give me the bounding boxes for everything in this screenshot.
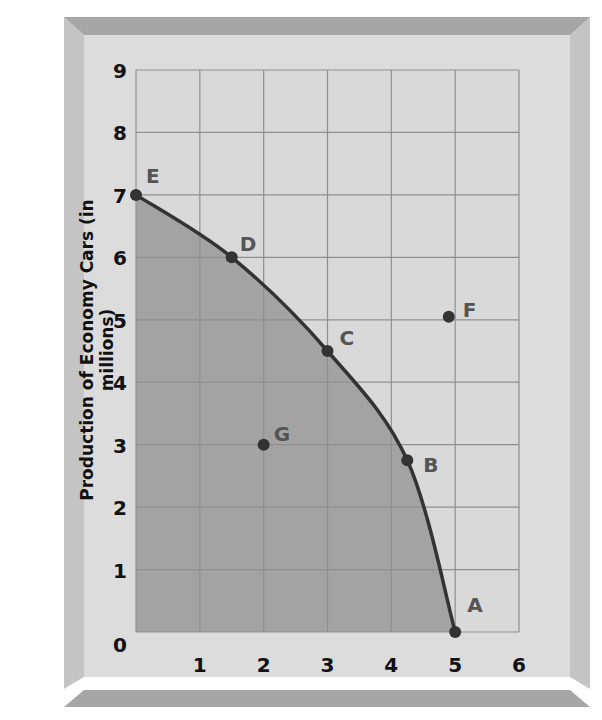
y-tick-label: 9 [113, 59, 127, 83]
y-tick-label: 8 [113, 121, 127, 145]
frame-bottom-bar [64, 690, 590, 707]
x-tick-label: 1 [193, 653, 207, 677]
point-a [449, 626, 461, 638]
y-tick-label: 7 [113, 184, 127, 208]
point-d [226, 251, 238, 263]
y-tick-label: 1 [113, 559, 127, 583]
x-tick-label: 4 [384, 653, 398, 677]
point-label-f: F [463, 298, 477, 322]
point-b [401, 454, 413, 466]
frame-right-bevel [570, 17, 590, 689]
point-label-d: D [240, 232, 257, 256]
point-label-b: B [423, 453, 438, 477]
y-tick-label: 2 [113, 496, 127, 520]
y-axis-label: Production of Economy Cars (in millions) [77, 160, 107, 540]
point-f [443, 311, 455, 323]
point-label-a: A [467, 593, 483, 617]
point-c [322, 345, 334, 357]
y-tick-label: 0 [113, 633, 127, 657]
point-g [258, 439, 270, 451]
x-tick-label: 2 [257, 653, 271, 677]
y-tick-label: 6 [113, 246, 127, 270]
point-label-c: C [340, 326, 355, 350]
point-e [130, 189, 142, 201]
y-tick-label: 3 [113, 434, 127, 458]
x-tick-label: 6 [512, 653, 526, 677]
point-label-g: G [274, 422, 290, 446]
chart-frame: EDCBAFG0123456789123456 Production of Ec… [64, 17, 590, 707]
ppf-chart: EDCBAFG0123456789123456 [64, 17, 590, 707]
frame-top-bevel [64, 17, 590, 35]
x-tick-label: 3 [321, 653, 335, 677]
point-label-e: E [146, 164, 160, 188]
x-tick-label: 5 [448, 653, 462, 677]
